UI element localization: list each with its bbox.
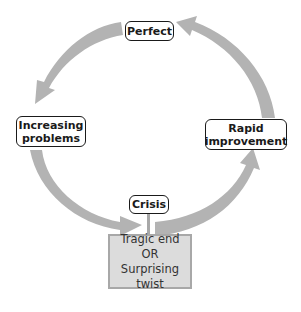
node-improvement-line2: improvement [205,135,288,148]
node-crisis-label: Crisis [132,198,166,211]
node-problems-line2: problems [22,132,80,145]
outcome-box: Tragic end OR Surprising twist [108,234,192,289]
node-rapid-improvement: Rapid improvement [205,119,287,150]
node-problems-line1: Increasing [19,119,84,132]
outcome-line1: Tragic end [120,232,179,247]
node-increasing-problems: Increasing problems [16,116,86,147]
outcome-line2: OR [141,247,158,262]
node-crisis: Crisis [129,195,169,214]
arrow-problems-to-crisis [30,150,142,236]
node-perfect: Perfect [125,21,174,41]
outcome-line3: Surprising twist [110,262,190,292]
node-perfect-label: Perfect [127,25,172,38]
arrow-crisis-to-improvement [155,148,260,236]
node-improvement-line1: Rapid [228,122,263,135]
arrow-improvement-to-perfect [176,16,275,118]
arrow-perfect-to-problems [35,22,123,104]
